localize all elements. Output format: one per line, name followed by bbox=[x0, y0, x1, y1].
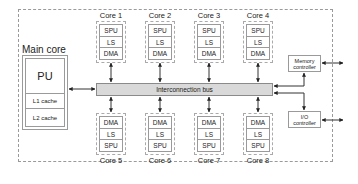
connector-arrows bbox=[0, 0, 358, 184]
